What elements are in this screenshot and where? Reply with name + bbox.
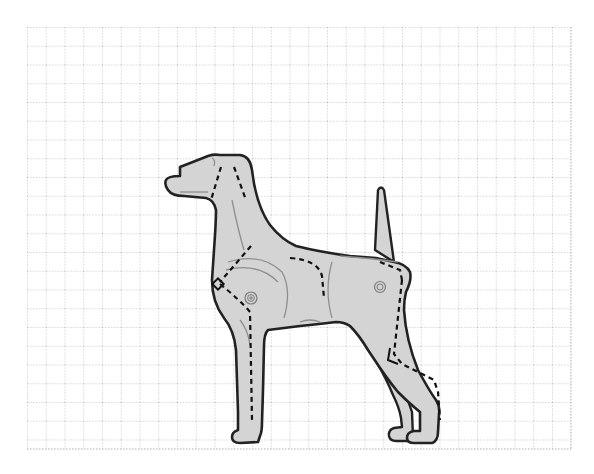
dog-diagram	[0, 0, 594, 474]
grid-paper	[27, 27, 571, 449]
